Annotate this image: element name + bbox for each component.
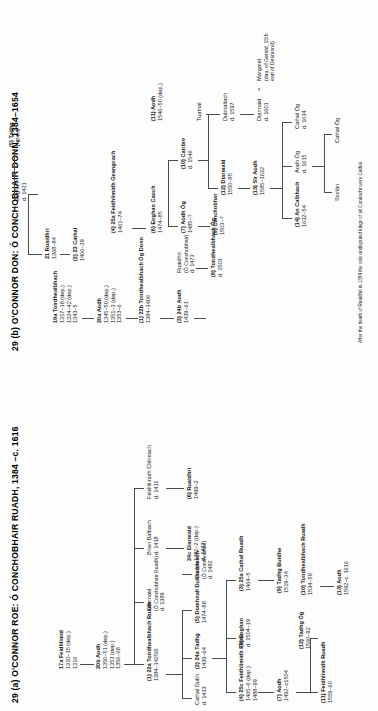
connector	[226, 580, 236, 581]
node-20b-aodh: 20b Aodh 1350–51 (dep.) 1353 (dep.) 1356…	[95, 631, 122, 669]
connector	[134, 602, 144, 603]
connector	[198, 160, 208, 161]
node-cairbre: Cairbre (Ó Conchobhair) d. 1482	[194, 541, 214, 579]
node-diarmaid-oconchobhair-ruadh: Diarmaid (Ó Conchobhair Ruadh) d. 1389	[146, 556, 166, 611]
sibling-bar	[282, 123, 283, 219]
connector	[324, 192, 332, 193]
node-6-eoghan-caoch: (6) Eoghan Caoch 1474–85	[150, 185, 164, 233]
connector	[270, 188, 282, 189]
connector	[324, 134, 332, 135]
connector	[212, 658, 226, 659]
connector	[124, 664, 134, 665]
connector	[240, 114, 254, 115]
connector	[168, 226, 178, 227]
node-6-ruaidhri: (6) Ruaidhri 1499–2	[186, 468, 200, 499]
node-20a-aodh: 20a Aodh 1345–50 (dep.) 1351–3 (dep.) 13…	[96, 285, 123, 323]
node-10-toirdhealbhach-ruadh: (12) Tadhg Óg 1560–92	[298, 612, 312, 649]
sibling-bar	[226, 581, 227, 693]
node-9-conchobhar: (9) Conchobhar 1503–?	[212, 194, 226, 235]
sibling-bar	[134, 489, 135, 665]
node-aodh-og-d1615: Aodh Óg d. 1615	[294, 151, 308, 173]
connector	[134, 548, 144, 549]
chart-29a-title: 29 (a) O'CONNOR ROE: Ó CONCHOBHAIR RUADH…	[10, 426, 20, 703]
sibling-bar	[168, 161, 169, 227]
node-eoghan: Eoghan d. 1421	[14, 182, 28, 201]
connector	[82, 318, 94, 319]
node-12-tadhg-og: (10) Toirdhealbhach Ruadh 1534–59	[300, 523, 314, 595]
node-1-22b-toirdhealbhach-og-donn: (1) 22b Toirdhealbhach Óg Donn 1384–1406	[138, 237, 152, 323]
connector	[126, 318, 138, 319]
connector	[182, 574, 192, 575]
connector	[320, 586, 334, 587]
connector	[134, 488, 144, 489]
rotated-page-canvas: 29 (a) O'CONNOR ROE: Ó CONCHOBHAIR RUADH…	[0, 0, 378, 711]
node-12-diarmaid: (12) Diarmaid 1550–85	[220, 160, 234, 195]
connector	[196, 268, 208, 269]
connector	[160, 318, 174, 319]
connector	[182, 610, 192, 611]
node-scolan: Scolán	[334, 184, 341, 201]
node-8-eoghan: (8) Eoghan d. 1504–19	[238, 618, 252, 647]
node-13-aodh: (13) Aodh 1592–c. 1616	[336, 561, 350, 595]
node-7-aodh: (7) Aodh 1492–c1504	[276, 670, 290, 701]
node-7-aodh-og: (7) Aodh Óg 1485–?	[180, 201, 194, 233]
connector	[310, 692, 318, 693]
connector	[182, 658, 192, 659]
node-11-feidhlimidh-ruadh: (11) Feidhlimidh Ruadh 1559–60	[320, 641, 334, 703]
connector	[182, 698, 192, 699]
node-4-25a-feidhlimidh-geangcach: (4) 25a Feidhlimidh Geangcach 1461–74	[110, 151, 124, 233]
connector	[206, 114, 220, 115]
chart-footnote: After the death of Ruaidhri in 1384 the …	[358, 162, 365, 343]
connector	[282, 122, 292, 123]
node-cathal-og: Cathal Óg	[334, 118, 341, 143]
node-tuathal: Tuathal	[196, 103, 203, 121]
sibling-bar	[208, 115, 209, 189]
connector	[166, 548, 184, 549]
sibling-bar	[28, 195, 29, 255]
connector	[166, 674, 182, 675]
node-22a-toirdhealbhach-ruadh: (1) 22a Toirdhealbhach Ruadh 1384–1425/6	[146, 602, 160, 681]
node-margaret: Margaret (dau. of Gerald, 15th earl of D…	[256, 33, 276, 81]
connector	[28, 254, 42, 255]
connector	[14, 149, 15, 195]
connector	[238, 188, 250, 189]
connector	[60, 254, 70, 255]
connector	[312, 166, 324, 167]
node-dubhaltach: Dubhaltach d. 1597	[222, 93, 236, 121]
node-cathal-dubh: Cathal Dubh d. 1433	[194, 674, 208, 705]
node-3-25a-cathal-ruadh: (3) 25a Cathal Ruadh 1464–5	[238, 536, 252, 591]
node-3-24b-aodh: (3) 24b Aodh 1439–61	[176, 289, 190, 323]
node-5-tadhg: (5) Tadhg 1474–6	[8, 122, 22, 147]
node-21-ruaidhri: 21 Ruaidhri 1368–84	[44, 229, 58, 259]
connector	[132, 228, 146, 229]
node-cathal-og-d1634: Cathal Óg d. 1634	[294, 104, 308, 129]
connector	[282, 218, 292, 219]
chart-29b-oconnor-don: 29 (b) O'CONNOR DON: Ó CONCHOBHAIR DONN,…	[0, 0, 378, 359]
connector	[198, 226, 210, 227]
connector	[28, 194, 38, 195]
node-13-sir-aodh: (13) Sir Aodh 1585–1632	[252, 160, 266, 195]
connector	[80, 664, 94, 665]
node-ruaidhri-oconchobhair: Ruaidhri (Ó Conchobhair) d. 1473	[176, 235, 196, 273]
node-feidhlimidh-cleireach: Feidhlimidh Cléireach d. 1411	[146, 445, 160, 499]
sibling-bar	[182, 611, 183, 699]
node-2-23-cathal: (2) 23 Cathal 1406–39	[72, 228, 86, 261]
connector	[282, 166, 292, 167]
node-10-cairbre: (10) Cairbre d. 1546	[180, 138, 194, 169]
sibling-bar	[324, 135, 325, 193]
chart-29a-oconnor-roe: 29 (a) O'CONNOR ROE: Ó CONCHOBHAIR RUADH…	[0, 359, 378, 711]
connector	[194, 318, 206, 319]
connector	[296, 692, 310, 693]
node-24a-tadhg: (2) 24a Tadhg 1439–64	[194, 633, 208, 669]
node-brian-balbach: Brian Balbach d. 1418	[146, 520, 160, 555]
connector	[258, 580, 274, 581]
connector	[208, 188, 218, 189]
node-19a-toirdhealbhach: 19a Toirdhealbhach 1317–18 (dep.) 1324–4…	[52, 271, 79, 323]
connector	[258, 692, 274, 693]
node-diarmaid-d1601: Diarmaid d. 1601	[256, 99, 270, 121]
node-11-aodh: (11) Aodh 1546–50 (dep.)	[150, 83, 164, 121]
connector	[134, 664, 144, 665]
connector	[166, 488, 184, 489]
marriage-symbol: =	[256, 88, 262, 91]
connector	[168, 160, 178, 161]
